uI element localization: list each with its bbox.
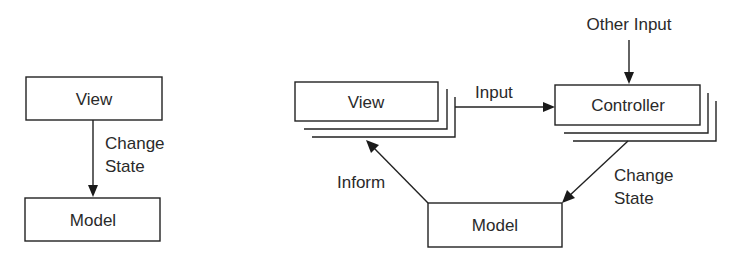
left-change-label-line2: State: [105, 157, 145, 176]
left-change-state-arrow: [88, 120, 98, 197]
right-model-box: Model: [428, 203, 562, 247]
other-input-arrow: [624, 40, 634, 84]
inform-label: Inform: [337, 173, 385, 192]
change-state-label-line1: Change: [614, 166, 674, 185]
arrowhead-down-icon: [624, 72, 634, 84]
inform-arrow: [366, 140, 428, 203]
change-state-label-line2: State: [614, 189, 654, 208]
left-view-label: View: [76, 90, 113, 109]
input-arrow: [455, 102, 555, 112]
right-view-label: View: [348, 93, 385, 112]
right-model-label: Model: [472, 216, 518, 235]
mvc-diagram: View Change State Model View Input Other: [0, 0, 741, 263]
left-view-box: View: [26, 77, 162, 120]
arrowhead-right-icon: [543, 102, 555, 112]
controller-box: Controller: [555, 85, 716, 141]
left-change-label-line1: Change: [105, 134, 165, 153]
right-diagram: View Input Other Input Controller Change…: [295, 15, 716, 247]
controller-label: Controller: [591, 96, 665, 115]
arrowhead-down-icon: [88, 185, 98, 197]
right-view-box: View: [295, 82, 455, 137]
left-diagram: View Change State Model: [25, 77, 165, 241]
left-model-label: Model: [70, 211, 116, 230]
input-label: Input: [475, 83, 513, 102]
other-input-label: Other Input: [586, 15, 671, 34]
left-model-box: Model: [25, 198, 160, 241]
